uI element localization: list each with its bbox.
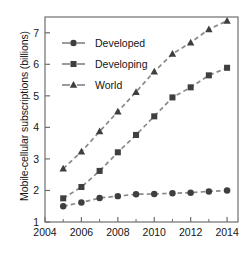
data-point	[169, 50, 176, 57]
data-point	[205, 25, 212, 32]
y-tick-label: 5	[33, 90, 39, 102]
y-tick-label: 1	[33, 216, 39, 228]
data-point	[187, 189, 193, 195]
data-point	[224, 65, 230, 71]
data-point	[151, 191, 157, 197]
legend-item-developed: Developed	[62, 37, 145, 49]
data-point	[169, 94, 175, 100]
data-point	[169, 190, 175, 196]
y-tick-label: 6	[33, 58, 39, 70]
legend-marker-triangle	[70, 81, 77, 88]
legend-marker-circle	[70, 40, 76, 46]
y-tick-label: 7	[33, 27, 39, 39]
data-point	[206, 72, 212, 78]
legend-item-developing: Developing	[62, 58, 148, 70]
x-tick-label: 2014	[215, 226, 239, 238]
x-tick-label: 2012	[179, 226, 203, 238]
data-point	[78, 199, 84, 205]
y-axis-ticks: 1234567	[33, 27, 50, 228]
data-point	[133, 191, 139, 197]
data-point	[60, 195, 66, 201]
legend-item-world: World	[62, 79, 122, 91]
y-tick-label: 2	[33, 184, 39, 196]
data-point	[223, 17, 230, 24]
x-tick-label: 2010	[143, 226, 167, 238]
data-point	[60, 203, 66, 209]
data-point	[206, 188, 212, 194]
data-point	[151, 68, 158, 75]
y-tick-label: 4	[33, 121, 39, 133]
line-chart-plot: 200420062008201020122014 1234567 Develop…	[0, 0, 248, 256]
legend-label: World	[95, 79, 122, 91]
data-point	[96, 195, 102, 201]
series-developing	[60, 65, 230, 202]
data-point	[188, 84, 194, 90]
data-point	[151, 113, 157, 119]
legend-label: Developed	[95, 37, 145, 49]
data-point	[78, 148, 85, 155]
data-point	[133, 132, 139, 138]
data-point	[187, 39, 194, 46]
x-tick-label: 2006	[70, 226, 94, 238]
legend-label: Developing	[95, 58, 148, 70]
y-tick-label: 3	[33, 153, 39, 165]
series-developed	[60, 187, 230, 209]
x-axis-ticks: 200420062008201020122014	[33, 217, 239, 238]
data-point	[114, 108, 121, 115]
chart-figure: Mobile-cellular subscriptions (billions)…	[0, 0, 248, 256]
data-point	[97, 168, 103, 174]
legend-marker-square	[70, 61, 76, 67]
x-tick-label: 2008	[106, 226, 130, 238]
chart-legend: DevelopedDevelopingWorld	[62, 37, 148, 91]
data-point	[78, 184, 84, 190]
data-point	[115, 149, 121, 155]
data-point	[115, 193, 121, 199]
data-point	[224, 187, 230, 193]
